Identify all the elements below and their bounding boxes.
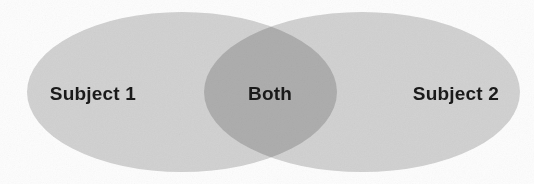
intersection-label-both: Both — [248, 83, 292, 105]
set-label-subject-2: Subject 2 — [413, 83, 499, 105]
set-label-subject-1: Subject 1 — [50, 83, 136, 105]
venn-diagram: Subject 1 Both Subject 2 — [0, 0, 534, 184]
